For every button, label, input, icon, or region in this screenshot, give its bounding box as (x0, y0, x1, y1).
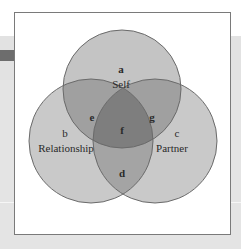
label-relationship: Relationship (38, 142, 94, 154)
label-letter-a: a (118, 63, 124, 75)
label-partner: Partner (156, 142, 188, 154)
label-letter-e: e (90, 111, 95, 123)
label-letter-c: c (175, 127, 180, 139)
label-self: Self (112, 78, 130, 90)
label-letter-g: g (149, 111, 155, 123)
label-letter-d: d (119, 167, 125, 179)
venn-diagram: a Self e g f b Relationship c Partner d (0, 0, 241, 249)
label-letter-f: f (120, 124, 124, 136)
label-letter-b: b (62, 127, 68, 139)
